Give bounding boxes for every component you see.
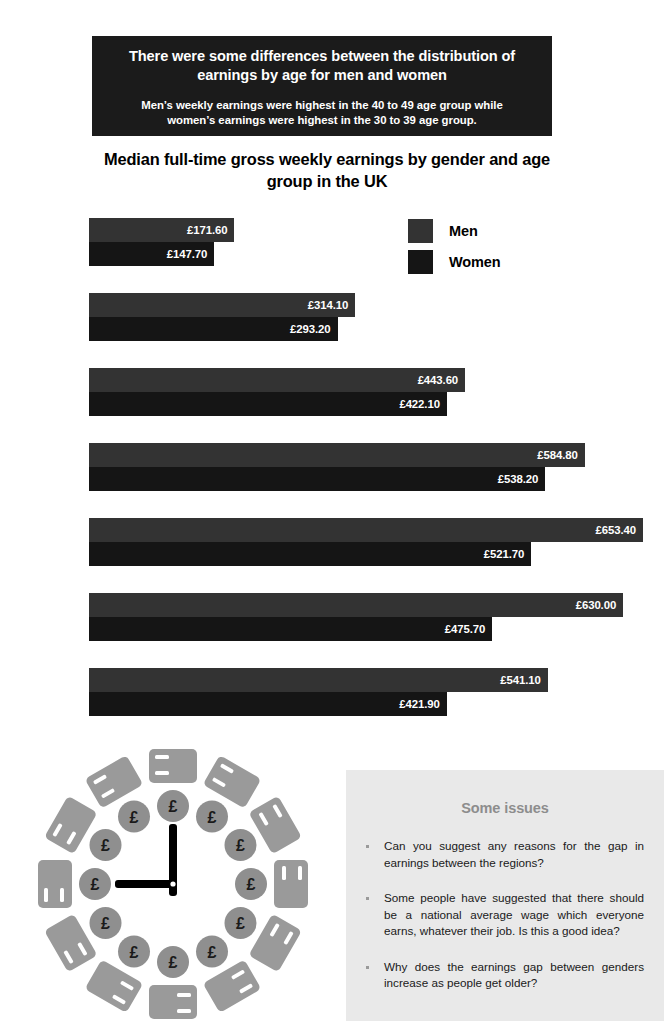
bar-value-label: £314.10 — [308, 299, 355, 311]
bar-group: 22 to 29£443.60£422.10 — [0, 368, 664, 416]
bar-women[interactable]: £521.70 — [89, 542, 531, 566]
clock-illustration-svg: ££££££££££££ — [8, 748, 338, 1021]
clock-hands — [115, 824, 177, 896]
bar-men[interactable]: £171.60 — [89, 218, 234, 242]
banknote-icon — [203, 959, 262, 1012]
bar-pair: £653.40£521.70 — [89, 518, 664, 566]
pound-coin-icon: £ — [196, 936, 228, 968]
bar-group: 30 to 39£584.80£538.20 — [0, 443, 664, 491]
banknote-icon — [149, 985, 197, 1019]
svg-text:£: £ — [130, 809, 139, 826]
header-sub-text: Men’s weekly earnings were highest in th… — [118, 98, 526, 128]
bar-group: 50 to 59£630.00£475.70 — [0, 593, 664, 641]
bar-women[interactable]: £538.20 — [89, 467, 545, 491]
banknote-icon — [85, 755, 144, 808]
bar-pair: £171.60£147.70 — [89, 218, 664, 266]
pound-coin-icon: £ — [79, 868, 111, 900]
bar-women[interactable]: £421.90 — [89, 692, 447, 716]
svg-text:£: £ — [247, 876, 256, 893]
issue-bullet-item: Some people have suggested that there sh… — [362, 890, 644, 940]
bar-men[interactable]: £653.40 — [89, 518, 643, 542]
pound-coin-icon: £ — [225, 907, 257, 939]
bar-pair: £584.80£538.20 — [89, 443, 664, 491]
bar-value-label: £171.60 — [187, 224, 234, 236]
pound-coin-icon: £ — [118, 936, 150, 968]
pound-coin-icon: £ — [90, 829, 122, 861]
pound-coin-icon: £ — [118, 801, 150, 833]
svg-text:£: £ — [236, 915, 245, 932]
svg-text:£: £ — [169, 954, 178, 971]
bar-value-label: £475.70 — [445, 623, 492, 635]
bar-women[interactable]: £147.70 — [89, 242, 214, 266]
pound-coin-icon: £ — [235, 868, 267, 900]
banknote-icon — [248, 796, 301, 855]
svg-text:£: £ — [101, 915, 110, 932]
bar-chart: 16 to 17£171.60£147.7018 to 21£314.10£29… — [0, 218, 664, 743]
bar-value-label: £421.90 — [399, 698, 446, 710]
issue-bullet-item: Can you suggest any reasons for the gap … — [362, 838, 644, 871]
svg-text:£: £ — [130, 944, 139, 961]
bar-pair: £314.10£293.20 — [89, 293, 664, 341]
bar-value-label: £584.80 — [537, 449, 584, 461]
bar-pair: £541.10£421.90 — [89, 668, 664, 716]
bar-group: 18 to 21£314.10£293.20 — [0, 293, 664, 341]
issues-bullet-list: Can you suggest any reasons for the gap … — [346, 816, 664, 992]
bar-women[interactable]: £422.10 — [89, 392, 447, 416]
bar-value-label: £293.20 — [290, 323, 337, 335]
bar-value-label: £443.60 — [418, 374, 465, 386]
svg-text:£: £ — [169, 798, 178, 815]
chart-title: Median full-time gross weekly earnings b… — [82, 148, 572, 192]
banknote-icon — [149, 749, 197, 783]
some-issues-panel: Some issues Can you suggest any reasons … — [346, 770, 664, 1021]
banknote-icon — [248, 914, 301, 973]
bar-pair: £630.00£475.70 — [89, 593, 664, 641]
bar-group: 16 to 17£171.60£147.70 — [0, 218, 664, 266]
hour-hand — [115, 880, 177, 888]
clock-with-money-illustration: ££££££££££££ — [8, 748, 338, 1021]
banknote-icon — [44, 796, 97, 855]
banknote-icon — [44, 914, 97, 973]
bar-men[interactable]: £584.80 — [89, 443, 585, 467]
bar-men[interactable]: £443.60 — [89, 368, 465, 392]
bar-value-label: £538.20 — [498, 473, 545, 485]
banknote-icon — [274, 860, 308, 908]
pound-coin-icon: £ — [225, 829, 257, 861]
svg-text:£: £ — [101, 837, 110, 854]
svg-text:£: £ — [208, 944, 217, 961]
bar-pair: £443.60£422.10 — [89, 368, 664, 416]
bar-men[interactable]: £541.10 — [89, 668, 548, 692]
bar-value-label: £653.40 — [596, 524, 643, 536]
pound-coin-icon: £ — [196, 801, 228, 833]
bar-men[interactable]: £630.00 — [89, 593, 623, 617]
bar-value-label: £147.70 — [167, 248, 214, 260]
bar-value-label: £541.10 — [500, 674, 547, 686]
bar-group: 40 to 49£653.40£521.70 — [0, 518, 664, 566]
bar-group: 60 and over£541.10£421.90 — [0, 668, 664, 716]
bar-men[interactable]: £314.10 — [89, 293, 355, 317]
banknote-icon — [38, 860, 72, 908]
banknote-icon — [203, 755, 262, 808]
pound-coin-icon: £ — [157, 946, 189, 978]
issues-panel-title: Some issues — [346, 770, 664, 816]
pound-coin-icon: £ — [90, 907, 122, 939]
banknote-icon — [85, 959, 144, 1012]
bar-value-label: £422.10 — [399, 398, 446, 410]
bar-women[interactable]: £475.70 — [89, 617, 492, 641]
bar-value-label: £630.00 — [576, 599, 623, 611]
bar-women[interactable]: £293.20 — [89, 317, 338, 341]
pound-coin-icon: £ — [157, 790, 189, 822]
header-callout-box: There were some differences between the … — [92, 36, 552, 136]
clock-centre-pin — [170, 881, 175, 886]
bar-value-label: £521.70 — [484, 548, 531, 560]
svg-text:£: £ — [236, 837, 245, 854]
header-main-text: There were some differences between the … — [118, 47, 526, 86]
issue-bullet-item: Why does the earnings gap between gender… — [362, 959, 644, 992]
svg-text:£: £ — [91, 876, 100, 893]
svg-text:£: £ — [208, 809, 217, 826]
